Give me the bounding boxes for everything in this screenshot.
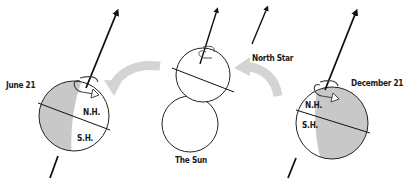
- north-star-arrow: [252, 8, 267, 44]
- label-the-sun: The Sun: [175, 155, 207, 165]
- label-december-sh: S.H.: [302, 120, 318, 130]
- label-june-sh: S.H.: [77, 133, 93, 143]
- label-north-star: North Star: [252, 53, 293, 63]
- sun: [162, 96, 218, 152]
- label-december-nh: N.H.: [305, 100, 322, 110]
- seasons-diagram: June 21 N.H. S.H. North Star The Sun Dec…: [0, 0, 410, 181]
- label-december-21: December 21: [351, 78, 403, 88]
- orbit-arrow-left: [104, 65, 160, 96]
- earth-june: [30, 12, 117, 178]
- label-june-21: June 21: [6, 80, 35, 90]
- label-june-nh: N.H.: [83, 107, 100, 117]
- diagram-canvas: [0, 0, 410, 181]
- earth-december: [288, 12, 380, 178]
- earth-middle: [170, 10, 234, 110]
